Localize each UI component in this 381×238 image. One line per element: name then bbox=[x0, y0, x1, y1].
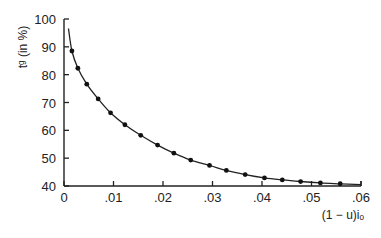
x-axis-ticks: 0.01.02.03.04.05.06 bbox=[60, 181, 370, 205]
y-tick-label: 70 bbox=[42, 96, 56, 111]
data-point bbox=[280, 177, 285, 182]
data-point-markers bbox=[70, 49, 343, 187]
x-tick-label: .03 bbox=[203, 190, 221, 205]
y-tick-label: 80 bbox=[42, 68, 56, 83]
y-tick-label: 60 bbox=[42, 123, 56, 138]
data-point bbox=[243, 172, 248, 177]
data-point bbox=[188, 158, 193, 163]
y-tick-label: 100 bbox=[34, 12, 56, 27]
y-axis-label: tᵍ (in %) bbox=[16, 26, 30, 69]
x-tick-label: .01 bbox=[104, 190, 122, 205]
data-point bbox=[171, 151, 176, 156]
data-point bbox=[96, 96, 101, 101]
data-point bbox=[70, 49, 75, 54]
data-point bbox=[75, 66, 80, 71]
data-point bbox=[262, 176, 267, 181]
x-tick-label: .06 bbox=[352, 190, 370, 205]
data-point bbox=[298, 179, 303, 184]
x-tick-label: .04 bbox=[253, 190, 271, 205]
data-point bbox=[122, 122, 127, 127]
data-point bbox=[318, 181, 323, 186]
data-point bbox=[108, 110, 113, 115]
y-tick-label: 40 bbox=[42, 179, 56, 194]
data-point bbox=[207, 163, 212, 168]
x-axis-label: (1 − u)iₒ bbox=[322, 208, 365, 222]
data-point bbox=[338, 181, 343, 186]
x-tick-label: .02 bbox=[154, 190, 172, 205]
data-point bbox=[224, 168, 229, 173]
data-point bbox=[84, 82, 89, 87]
chart: 405060708090100 0.01.02.03.04.05.06 tᵍ (… bbox=[0, 0, 381, 238]
data-point bbox=[155, 143, 160, 148]
y-tick-label: 90 bbox=[42, 40, 56, 55]
x-tick-label: .05 bbox=[302, 190, 320, 205]
fitted-curve bbox=[69, 29, 362, 185]
y-tick-label: 50 bbox=[42, 151, 56, 166]
x-tick-label: 0 bbox=[60, 190, 67, 205]
data-point bbox=[138, 133, 143, 138]
